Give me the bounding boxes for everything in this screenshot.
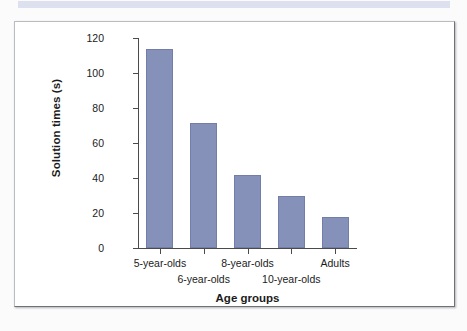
- bar: [190, 123, 217, 248]
- bar-chart-plot-area: Solution times (s) 020406080100120 5-yea…: [15, 22, 456, 308]
- x-axis-title: Age groups: [138, 292, 357, 304]
- x-axis-tick-label: Adults: [290, 258, 380, 269]
- y-axis-tick-label: 80: [64, 103, 104, 114]
- bar: [322, 217, 349, 248]
- top-banner-strip: [18, 1, 450, 8]
- y-axis-tick: [133, 248, 138, 249]
- x-axis-tick: [291, 249, 292, 254]
- bar: [278, 196, 305, 248]
- y-axis-tick: [133, 178, 138, 179]
- x-axis-tick: [204, 249, 205, 254]
- x-axis-tick-label: 8-year-olds: [203, 258, 293, 269]
- y-axis-tick-label: 60: [64, 138, 104, 149]
- y-axis-tick: [133, 213, 138, 214]
- x-axis-tick-label: 6-year-olds: [159, 274, 249, 285]
- y-axis-tick-label: 100: [64, 68, 104, 79]
- bar: [234, 175, 261, 249]
- x-axis-tick: [160, 249, 161, 254]
- x-axis-tick: [248, 249, 249, 254]
- y-axis-line: [138, 38, 139, 249]
- x-axis-tick-label: 5-year-olds: [115, 258, 205, 269]
- y-axis-tick: [133, 38, 138, 39]
- y-axis-tick: [133, 108, 138, 109]
- y-axis-tick-label: 20: [64, 208, 104, 219]
- bar: [146, 49, 173, 248]
- y-axis-title: Solution times (s): [50, 48, 62, 208]
- y-axis-tick-label: 0: [64, 243, 104, 254]
- x-axis-tick: [335, 249, 336, 254]
- x-axis-tick-label: 10-year-olds: [246, 274, 336, 285]
- y-axis-tick: [133, 143, 138, 144]
- y-axis-tick: [133, 73, 138, 74]
- y-axis-tick-label: 120: [64, 33, 104, 44]
- figure-frame: Solution times (s) 020406080100120 5-yea…: [14, 21, 455, 307]
- y-axis-tick-label: 40: [64, 173, 104, 184]
